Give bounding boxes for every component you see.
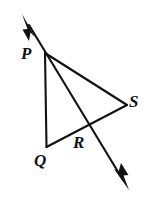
segment-P-S: [45, 53, 127, 105]
arrowhead-upper-icon: [22, 14, 35, 41]
geometry-figure: P Q R S: [0, 0, 156, 201]
vertex-label-r: R: [73, 134, 84, 151]
segment-Q-S: [47, 105, 128, 147]
vertex-label-q: Q: [34, 152, 46, 169]
vertex-label-p: P: [21, 45, 31, 62]
vertex-label-s: S: [129, 93, 138, 110]
segment-P-Q: [45, 53, 47, 147]
